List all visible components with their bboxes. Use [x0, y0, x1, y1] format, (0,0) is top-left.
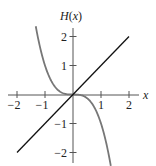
axes: [8, 28, 139, 163]
y-tick-label: 2: [61, 30, 67, 44]
x-tick-label: −1: [36, 98, 49, 112]
y-tick-label: 1: [61, 59, 67, 73]
function-graph: −2−112 −2−112 x H(x): [0, 0, 156, 166]
x-tick-label: 2: [126, 98, 132, 112]
x-tick-label: −2: [8, 98, 21, 112]
y-tick-label: −1: [54, 117, 67, 131]
x-tick-label: 1: [98, 98, 104, 112]
y-tick-label: −2: [54, 146, 67, 160]
x-axis-label: x: [142, 88, 149, 102]
y-axis-label: H(x): [59, 9, 82, 23]
